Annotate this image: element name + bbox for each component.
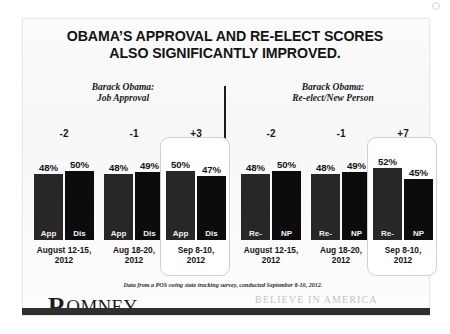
bar-value-label: 45% — [404, 167, 433, 178]
bar-series-label: App — [166, 229, 195, 238]
bar-value-label: 48% — [241, 162, 270, 173]
cluster-date-line-2: 2012 — [366, 255, 440, 265]
cluster-date-label: Sep 8-10, 2012 — [366, 245, 440, 265]
bar-series-label: NP — [272, 229, 301, 238]
group-heading-job-approval: Barack Obama: Job Approval — [38, 82, 208, 104]
cluster-date-label: Sep 8-10, 2012 — [159, 245, 233, 265]
bar-cluster-highlighted: +7 52% Re- 45% NP Sep 8-10, 2012 — [370, 128, 436, 276]
bar-series-label: Re- — [373, 229, 402, 238]
cluster-date-label: August 12-15, 2012 — [27, 245, 101, 265]
bar-value-label: 47% — [197, 164, 226, 175]
bar-group-right: 45% NP — [404, 158, 433, 240]
cluster-date-line-1: August 12-15, — [37, 245, 91, 255]
cluster-plot: 52% Re- 45% NP — [373, 158, 433, 240]
net-delta-label: -2 — [31, 128, 97, 139]
bar-series-label: App — [34, 229, 63, 238]
page-title: OBAMA’S APPROVAL AND RE-ELECT SCORES ALS… — [30, 28, 420, 62]
group-heading-right-line-1: Barack Obama: — [302, 82, 365, 92]
cluster-date-line-1: Aug 18-20, — [113, 245, 155, 255]
bar-right: Dis — [197, 176, 226, 240]
cluster-date-line-2: 2012 — [234, 255, 308, 265]
bar-cluster: -1 48% App 49% Dis Aug 18-20, 2012 — [101, 128, 167, 276]
bottom-band — [22, 308, 430, 315]
bar-group-left: 48% App — [104, 158, 133, 240]
cluster-plot: 48% App 49% Dis — [104, 158, 164, 240]
bar-group-right: 50% NP — [272, 158, 301, 240]
cluster-date-line-1: Sep 8-10, — [178, 245, 214, 255]
bar-group-left: 48% App — [34, 158, 63, 240]
cluster-plot: 48% App 50% Dis — [34, 158, 94, 240]
group-heading-left-line-1: Barack Obama: — [92, 82, 155, 92]
bar-group-left: 48% Re- — [311, 158, 340, 240]
slide-canvas: OBAMA’S APPROVAL AND RE-ELECT SCORES ALS… — [0, 0, 450, 334]
bar-value-label: 52% — [373, 156, 402, 167]
bar-series-label: Dis — [197, 229, 226, 238]
bar-group-left: 52% Re- — [373, 158, 402, 240]
net-delta-label: +7 — [370, 128, 436, 139]
cluster-plot: 48% Re- 49% NP — [311, 158, 371, 240]
cluster-date-line-1: Aug 18-20, — [320, 245, 362, 255]
bar-cluster: -2 48% App 50% Dis August 12-15, 2012 — [31, 128, 97, 276]
cluster-date-line-1: August 12-15, — [244, 245, 298, 255]
bar-value-label: 48% — [34, 162, 63, 173]
bar-left: App — [166, 171, 195, 240]
bar-series-label: Re- — [241, 229, 270, 238]
bar-cluster-highlighted: +3 50% App 47% Dis Sep 8-10, 2012 — [163, 128, 229, 276]
bar-left: Re- — [373, 168, 402, 240]
group-heading-right-line-2: Re-elect/New Person — [248, 93, 418, 104]
group-heading-reelect: Barack Obama: Re-elect/New Person — [248, 82, 418, 104]
corner-mark-icon — [432, 2, 440, 10]
bar-series-label: Dis — [65, 229, 94, 238]
bar-series-label: Re- — [311, 229, 340, 238]
net-delta-label: -2 — [238, 128, 304, 139]
cluster-date-line-2: 2012 — [27, 255, 101, 265]
bar-left: App — [34, 174, 63, 240]
bar-group-right: 47% Dis — [197, 158, 226, 240]
bar-value-label: 48% — [311, 162, 340, 173]
bar-left: App — [104, 174, 133, 240]
bar-right: NP — [272, 171, 301, 240]
bar-cluster: -1 48% Re- 49% NP Aug 18-20, 2012 — [308, 128, 374, 276]
bar-group-left: 48% Re- — [241, 158, 270, 240]
bar-group-right: 50% Dis — [65, 158, 94, 240]
bar-right: Dis — [65, 171, 94, 240]
cluster-date-line-1: Sep 8-10, — [385, 245, 421, 255]
bar-value-label: 48% — [104, 162, 133, 173]
net-delta-label: +3 — [163, 128, 229, 139]
bar-left: Re- — [241, 174, 270, 240]
cluster-date-label: August 12-15, 2012 — [234, 245, 308, 265]
bar-series-label: App — [104, 229, 133, 238]
net-delta-label: -1 — [308, 128, 374, 139]
title-line-2: ALSO SIGNIFICANTLY IMPROVED. — [30, 45, 420, 62]
bar-value-label: 50% — [166, 159, 195, 170]
cluster-date-line-2: 2012 — [159, 255, 233, 265]
title-line-1: OBAMA’S APPROVAL AND RE-ELECT SCORES — [67, 28, 383, 44]
cluster-plot: 48% Re- 50% NP — [241, 158, 301, 240]
campaign-tagline: BELIEVE IN AMERICA — [255, 294, 378, 305]
bar-right: NP — [404, 179, 433, 240]
logo-initial: R — [48, 293, 66, 320]
bar-value-label: 50% — [65, 159, 94, 170]
bar-series-label: NP — [404, 229, 433, 238]
cluster-plot: 50% App 47% Dis — [166, 158, 226, 240]
bar-value-label: 50% — [272, 159, 301, 170]
group-heading-left-line-2: Job Approval — [38, 93, 208, 104]
net-delta-label: -1 — [101, 128, 167, 139]
bar-group-left: 50% App — [166, 158, 195, 240]
source-footnote: Data from a POS swing state tracking sur… — [58, 282, 388, 288]
bar-cluster: -2 48% Re- 50% NP August 12-15, 2012 — [238, 128, 304, 276]
bar-left: Re- — [311, 174, 340, 240]
